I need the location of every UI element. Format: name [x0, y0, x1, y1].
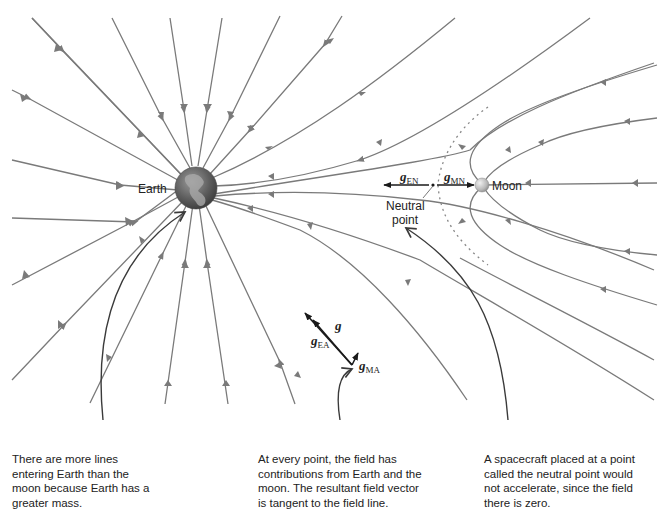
neutral-point-label-line1: Neutral	[386, 199, 425, 213]
g-mn-label: gMN	[443, 169, 466, 186]
neutral-point-label-line2: point	[392, 213, 419, 227]
caption-neutral-point: A spacecraft placed at a point called th…	[484, 452, 649, 510]
direction-arrows	[20, 38, 544, 386]
caption-more-lines: There are more lines entering Earth than…	[12, 452, 152, 510]
vector-g-ma	[352, 353, 358, 365]
pointer-to-point-a	[338, 369, 352, 420]
g-en-label: gEN	[399, 169, 419, 186]
moon-sphere-icon	[475, 178, 489, 192]
caption-tangent: At every point, the field has contributi…	[258, 452, 426, 510]
pointer-to-neutral-point	[406, 228, 508, 420]
earth-globe-icon	[175, 167, 217, 209]
earth-field-lines	[12, 16, 654, 404]
g-label: g	[334, 318, 342, 333]
neutral-point-leader	[423, 186, 433, 198]
earth-label: Earth	[138, 182, 167, 196]
g-ma-label: gMA	[358, 358, 381, 375]
moon-label: Moon	[492, 179, 522, 193]
